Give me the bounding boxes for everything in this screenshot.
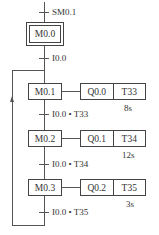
transition-label-sm01: SM0.1 (52, 7, 76, 17)
action-link-1 (62, 91, 80, 92)
spine-seg-2 (44, 100, 45, 130)
action-link-2 (62, 138, 80, 139)
transition-bar-3 (39, 212, 49, 213)
transition-bar-i00 (39, 58, 49, 59)
loop-left (12, 70, 13, 226)
initial-step-label: M0.0 (29, 25, 61, 43)
transition-label-3: I0.0 • T35 (52, 207, 88, 217)
action-timer-3: T35 (113, 180, 146, 195)
step-box-m03: M0.3 (28, 179, 62, 196)
action-timer-2: T34 (113, 131, 146, 146)
spine-seg-4 (44, 196, 45, 226)
timer-time-1: 8s (124, 103, 132, 113)
loop-bottom (12, 225, 45, 226)
action-output-1: Q0.0 (81, 84, 113, 99)
transition-label-1: I0.0 • T33 (52, 109, 88, 119)
loop-top (12, 70, 45, 71)
action-output-2: Q0.1 (81, 131, 113, 146)
timer-time-3: 3s (126, 199, 134, 209)
step-box-m02: M0.2 (28, 130, 62, 147)
transition-bar-2 (39, 164, 49, 165)
loop-arrow-up-icon (10, 96, 14, 102)
action-block-2: Q0.1 T34 (80, 130, 146, 147)
action-block-1: Q0.0 T33 (80, 83, 146, 100)
transition-bar-sm01 (39, 12, 49, 13)
action-timer-1: T33 (113, 84, 146, 99)
transition-label-2: I0.0 • T34 (52, 159, 88, 169)
action-output-3: Q0.2 (81, 180, 113, 195)
action-block-3: Q0.2 T35 (80, 179, 146, 196)
transition-label-i00: I0.0 (52, 53, 66, 63)
action-link-3 (62, 187, 80, 188)
initial-step-box: M0.0 (26, 22, 64, 46)
step-box-m01: M0.1 (28, 83, 62, 100)
transition-bar-1 (39, 114, 49, 115)
spine-seg-1 (44, 46, 45, 83)
timer-time-2: 12s (122, 150, 135, 160)
spine-seg-3 (44, 147, 45, 179)
